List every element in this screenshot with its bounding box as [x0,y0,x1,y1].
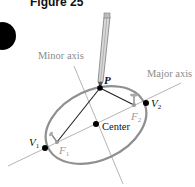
string-p-f1 [57,88,100,142]
point-p [97,85,103,91]
point-p-label: P [104,74,111,86]
center-label: Center [102,121,130,132]
point-v1 [42,145,48,151]
pin-f1-icon [48,131,59,144]
v2-label: V2 [151,97,162,111]
major-axis-label: Major axis [147,68,192,79]
point-v2 [143,100,149,106]
minor-axis-label: Minor axis [38,50,84,61]
v1-label: V1 [29,136,40,150]
string-p-f2 [100,88,134,105]
ellipse-diagram: Minor axis Major axis P Center V1 V2 F1 … [0,0,195,187]
pin-f2-icon [130,94,138,108]
point-center [93,121,99,127]
f1-label: F1 [58,144,70,158]
f2-label: F2 [130,110,142,124]
